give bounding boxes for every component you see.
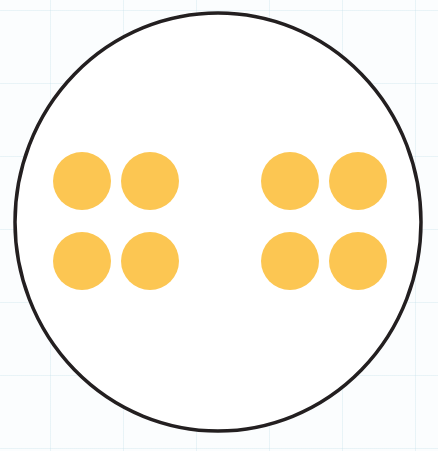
yellow-dot: [53, 152, 111, 210]
yellow-dot: [329, 232, 387, 290]
yellow-dot: [329, 152, 387, 210]
yellow-dot: [121, 152, 179, 210]
outer-circle: [15, 13, 421, 431]
yellow-dot: [121, 232, 179, 290]
yellow-dot: [261, 152, 319, 210]
yellow-dot: [261, 232, 319, 290]
yellow-dot: [53, 232, 111, 290]
diagram-canvas: [0, 0, 438, 451]
